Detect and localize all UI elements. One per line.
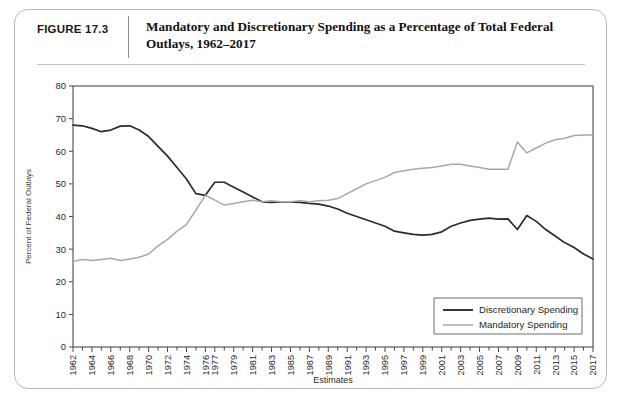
svg-text:1989: 1989 — [324, 355, 334, 375]
svg-text:60: 60 — [55, 146, 66, 157]
header-divider — [128, 16, 129, 58]
figure-card: FIGURE 17.3 Mandatory and Discretionary … — [14, 9, 607, 389]
svg-text:2013: 2013 — [551, 355, 561, 375]
line-chart: 01020304050607080 1962196419661968197019… — [15, 66, 608, 389]
svg-text:1983: 1983 — [267, 355, 277, 375]
svg-text:70: 70 — [55, 113, 66, 124]
svg-text:1972: 1972 — [163, 355, 173, 375]
y-axis-title: Percent of Federal Outlays — [24, 169, 33, 264]
svg-text:Mandatory Spending: Mandatory Spending — [479, 319, 568, 330]
svg-text:Percent of Federal Outlays: Percent of Federal Outlays — [24, 169, 33, 264]
svg-text:2011: 2011 — [532, 355, 542, 375]
svg-text:1964: 1964 — [87, 355, 97, 375]
svg-text:1987: 1987 — [305, 355, 315, 375]
svg-text:1966: 1966 — [106, 355, 116, 375]
svg-text:1962: 1962 — [68, 355, 78, 375]
chart-series — [73, 125, 593, 261]
svg-text:0: 0 — [61, 341, 66, 352]
svg-text:2001: 2001 — [437, 355, 447, 375]
figure-header: FIGURE 17.3 Mandatory and Discretionary … — [15, 10, 606, 66]
svg-text:2015: 2015 — [569, 355, 579, 375]
svg-text:1997: 1997 — [399, 355, 409, 375]
svg-text:40: 40 — [55, 211, 66, 222]
svg-text:1974: 1974 — [182, 355, 192, 375]
svg-text:2003: 2003 — [456, 355, 466, 375]
svg-text:Discretionary Spending: Discretionary Spending — [479, 304, 578, 315]
svg-text:80: 80 — [55, 80, 66, 91]
x-axis-ticks: 1962196419661968197019721974197619771979… — [68, 347, 598, 375]
svg-text:Estimates: Estimates — [313, 375, 353, 385]
svg-text:1999: 1999 — [418, 355, 428, 375]
svg-text:1985: 1985 — [286, 355, 296, 375]
figure-title: Mandatory and Discretionary Spending as … — [146, 19, 576, 52]
svg-text:1993: 1993 — [361, 355, 371, 375]
svg-text:2007: 2007 — [494, 355, 504, 375]
svg-text:1981: 1981 — [248, 355, 258, 375]
header-rule — [37, 64, 585, 65]
x-axis-title: Estimates — [313, 375, 353, 385]
svg-text:1977: 1977 — [210, 355, 220, 375]
svg-text:30: 30 — [55, 244, 66, 255]
chart-plot-area: 01020304050607080 1962196419661968197019… — [15, 66, 608, 389]
svg-text:1995: 1995 — [380, 355, 390, 375]
svg-text:2005: 2005 — [475, 355, 485, 375]
svg-text:1979: 1979 — [229, 355, 239, 375]
svg-text:1991: 1991 — [343, 355, 353, 375]
svg-text:20: 20 — [55, 276, 66, 287]
svg-text:2009: 2009 — [513, 355, 523, 375]
svg-text:2017: 2017 — [588, 355, 598, 375]
svg-text:50: 50 — [55, 178, 66, 189]
chart-legend: Discretionary SpendingMandatory Spending — [434, 298, 582, 334]
svg-text:10: 10 — [55, 309, 66, 320]
svg-text:1968: 1968 — [125, 355, 135, 375]
figure-number-label: FIGURE 17.3 — [37, 23, 129, 35]
svg-text:1970: 1970 — [144, 355, 154, 375]
y-axis-ticks: 01020304050607080 — [55, 80, 73, 352]
